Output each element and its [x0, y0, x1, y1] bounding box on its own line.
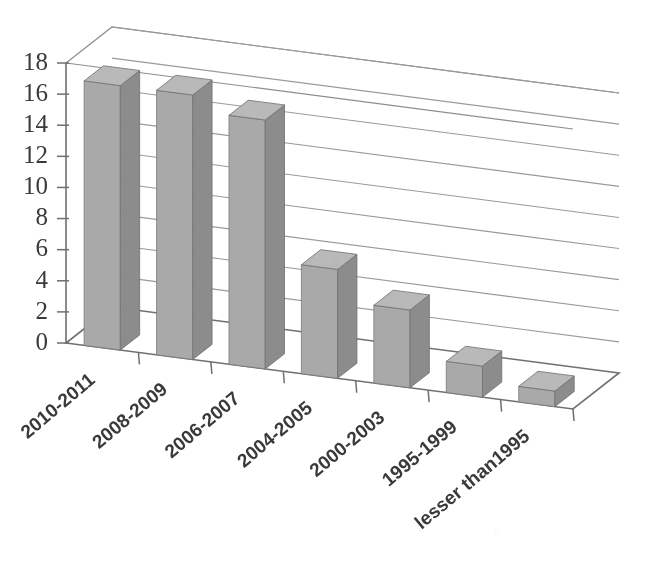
bar-chart-3d: 024681012141618 2010-20112008-20092006-2… [0, 0, 646, 571]
y-axis-tick-label: 8 [36, 203, 49, 230]
x-axis-category-label: 2006-2007 [161, 388, 244, 463]
x-axis-tick [501, 400, 502, 412]
chart-container: 024681012141618 2010-20112008-20092006-2… [0, 0, 646, 571]
value-axis-labels: 024681012141618 [23, 48, 49, 355]
x-axis-category-label: 1995-1999 [378, 416, 461, 491]
bar-column [374, 290, 430, 388]
x-axis-tick [356, 381, 357, 393]
bar-front-face [374, 305, 410, 387]
y-axis-tick-label: 4 [36, 266, 49, 293]
x-axis-category-label: 2008-2009 [88, 378, 171, 453]
y-axis-tick-label: 18 [23, 48, 48, 75]
bar-column [519, 371, 575, 406]
x-axis-tick [283, 371, 284, 383]
bar-column [229, 100, 285, 369]
value-axis [57, 63, 69, 343]
x-axis-category-label: 2010-2011 [16, 368, 99, 442]
x-axis-category-label: 2000-2003 [305, 406, 388, 481]
x-axis-category-label: 2004-2005 [233, 397, 316, 472]
bar-column [301, 250, 357, 379]
bar-column [157, 75, 213, 359]
bar-column [446, 346, 502, 397]
bar-side-face [265, 105, 284, 369]
x-axis-tick [428, 390, 429, 402]
y-axis-tick-label: 10 [23, 172, 48, 199]
bar-side-face [410, 295, 429, 388]
bar-side-face [120, 71, 139, 351]
y-axis-tick-label: 6 [36, 234, 49, 261]
y-axis-tick-label: 16 [23, 79, 48, 106]
bar-side-face [193, 80, 212, 360]
y-axis-tick-label: 12 [23, 141, 48, 168]
bar-front-face [84, 81, 120, 350]
x-axis-tick [138, 352, 139, 364]
y-axis-tick-label: 14 [23, 110, 49, 137]
y-axis-tick-label: 2 [36, 297, 49, 324]
y-axis-tick-label: 0 [36, 328, 49, 355]
x-axis-tick [211, 362, 212, 374]
bar-side-face [338, 254, 357, 378]
bar-front-face [229, 115, 265, 369]
bar-front-face [446, 361, 482, 397]
bar-front-face [157, 90, 193, 359]
bar-front-face [301, 265, 337, 379]
bar-column [84, 66, 140, 350]
